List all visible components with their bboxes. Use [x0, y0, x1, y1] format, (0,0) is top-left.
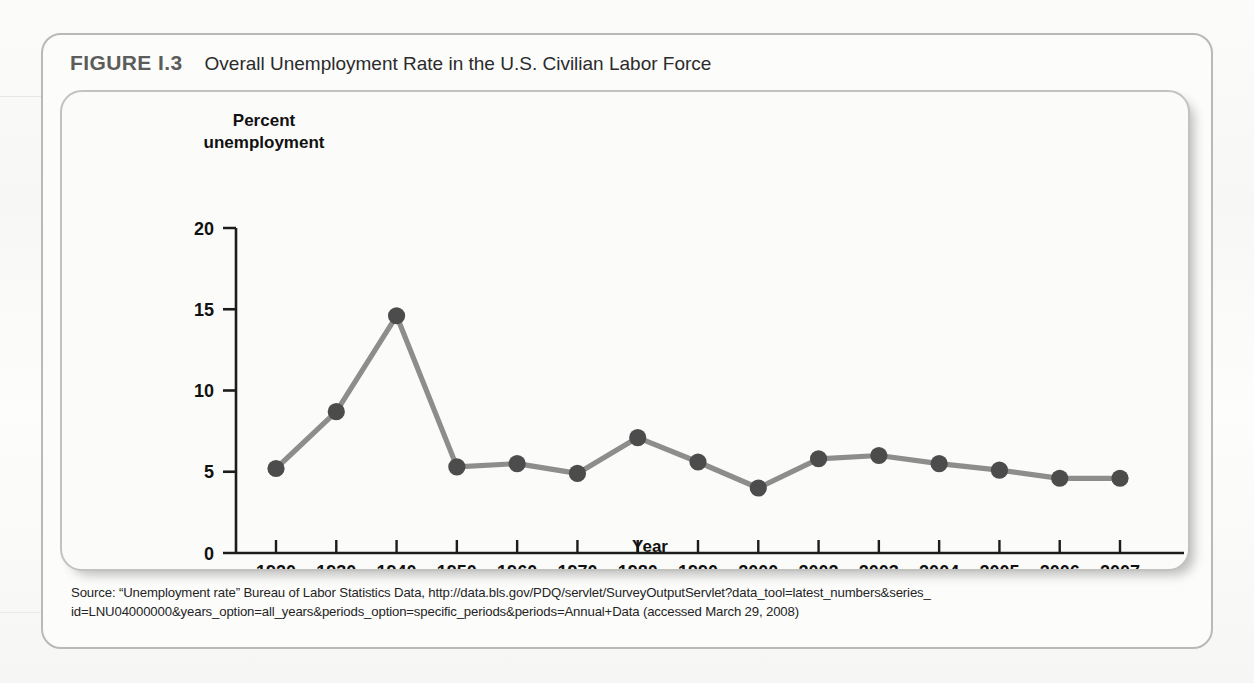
x-axis-tick-label: 1990 — [678, 562, 718, 571]
x-axis-tick-label: 1970 — [557, 562, 597, 571]
source-note-line2: id=LNU04000000&years_option=all_years&pe… — [71, 604, 799, 619]
x-axis-tick-label: 1950 — [437, 562, 477, 571]
data-point-marker — [870, 447, 887, 464]
data-point-marker — [1051, 470, 1068, 487]
data-point-marker — [1111, 470, 1128, 487]
x-axis-tick-label: 2007 — [1100, 562, 1140, 571]
x-axis-tick-label: 1960 — [497, 562, 537, 571]
data-point-marker — [509, 455, 526, 472]
x-axis-tick-label: 1930 — [316, 562, 356, 571]
data-point-marker — [629, 429, 646, 446]
data-point-marker — [388, 307, 405, 324]
x-axis-tick-label: 2006 — [1040, 562, 1080, 571]
data-point-marker — [810, 450, 827, 467]
data-point-marker — [931, 455, 948, 472]
figure-title: Overall Unemployment Rate in the U.S. Ci… — [205, 53, 712, 75]
y-axis-tick-label: 5 — [204, 462, 214, 482]
scan-artifact-top — [0, 96, 46, 97]
x-axis-tick-label: 2000 — [738, 562, 778, 571]
x-axis-title: Year — [62, 537, 1188, 557]
figure-frame: FIGURE I.3 Overall Unemployment Rate in … — [41, 33, 1213, 649]
x-axis-tick-label: 2003 — [859, 562, 899, 571]
data-point-marker — [991, 462, 1008, 479]
data-point-marker — [328, 403, 345, 420]
data-point-marker — [569, 465, 586, 482]
x-axis-tick-label: 1920 — [256, 562, 296, 571]
figure-header: FIGURE I.3 Overall Unemployment Rate in … — [70, 51, 711, 75]
line-chart-svg: 0510152019201930194019501960197019801990… — [62, 92, 1190, 571]
plot-area: Percent unemployment 0510152019201930194… — [62, 92, 1188, 569]
source-note-line1: Source: “Unemployment rate” Bureau of La… — [71, 585, 931, 600]
x-axis-tick-label: 1980 — [618, 562, 658, 571]
data-point-marker — [689, 453, 706, 470]
x-axis-tick-label: 2002 — [799, 562, 839, 571]
y-axis-tick-label: 15 — [194, 300, 214, 320]
y-axis-tick-label: 20 — [194, 219, 214, 239]
x-axis-tick-label: 1940 — [377, 562, 417, 571]
data-point-marker — [448, 458, 465, 475]
data-point-marker — [267, 460, 284, 477]
x-axis-title-text: Year — [632, 537, 668, 557]
x-axis-tick-label: 2005 — [979, 562, 1019, 571]
data-point-marker — [750, 479, 767, 496]
x-axis-tick-label: 2004 — [919, 562, 959, 571]
chart-panel: Percent unemployment 0510152019201930194… — [60, 90, 1190, 571]
figure-number-label: FIGURE I.3 — [70, 51, 183, 75]
y-axis-tick-label: 10 — [194, 381, 214, 401]
source-note: Source: “Unemployment rate” Bureau of La… — [71, 583, 1189, 621]
scan-artifact-bottom — [0, 612, 44, 613]
